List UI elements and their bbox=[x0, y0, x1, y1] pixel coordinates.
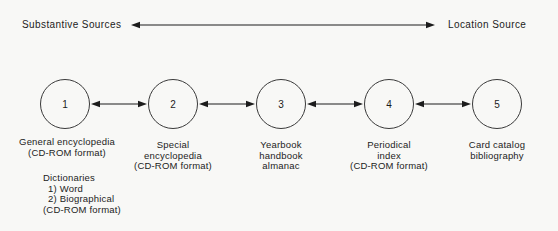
connector-double-arrow-icon bbox=[199, 99, 255, 109]
connector-double-arrow-icon bbox=[415, 99, 471, 109]
substantive-sources-label: Substantive Sources bbox=[22, 19, 121, 30]
label-line: (CD-ROM format) bbox=[43, 205, 121, 216]
label-line: bibliography bbox=[437, 151, 557, 162]
node-label-3: Yearbook handbook almanac bbox=[221, 140, 341, 172]
node-label-1: General encyclopedia (CD-ROM format) bbox=[7, 137, 127, 158]
node-number: 5 bbox=[494, 99, 500, 110]
node-circle-3: 3 bbox=[256, 79, 306, 129]
node-label-5: Card catalog bibliography bbox=[437, 140, 557, 161]
node-circle-5: 5 bbox=[472, 79, 522, 129]
node-number: 1 bbox=[62, 99, 68, 110]
connector-double-arrow-icon bbox=[91, 99, 147, 109]
location-source-label: Location Source bbox=[448, 19, 526, 30]
label-line: Card catalog bbox=[437, 140, 557, 151]
node-circle-1: 1 bbox=[40, 79, 90, 129]
dictionaries-block: Dictionaries 1) Word 2) Biographical (CD… bbox=[43, 173, 121, 215]
node-circle-2: 2 bbox=[148, 79, 198, 129]
spectrum-double-arrow-icon bbox=[131, 20, 435, 30]
label-line: Yearbook bbox=[221, 140, 341, 151]
label-line: almanac bbox=[221, 161, 341, 172]
label-line: (CD-ROM format) bbox=[7, 148, 127, 159]
node-number: 4 bbox=[386, 99, 392, 110]
label-line: General encyclopedia bbox=[7, 137, 127, 148]
label-line: Dictionaries bbox=[43, 173, 121, 184]
sources-spectrum-diagram: Substantive Sources Location Source 1 2 … bbox=[0, 0, 558, 231]
node-number: 3 bbox=[278, 99, 284, 110]
connector-double-arrow-icon bbox=[307, 99, 363, 109]
node-circle-4: 4 bbox=[364, 79, 414, 129]
label-line: Periodical bbox=[329, 140, 449, 151]
node-label-4: Periodical index (CD-ROM format) bbox=[329, 140, 449, 172]
node-label-2: Special encyclopedia (CD-ROM format) bbox=[113, 140, 233, 172]
label-line: Special bbox=[113, 140, 233, 151]
label-line: (CD-ROM format) bbox=[329, 161, 449, 172]
label-line: 2) Biographical bbox=[43, 194, 121, 205]
node-number: 2 bbox=[170, 99, 176, 110]
label-line: (CD-ROM format) bbox=[113, 161, 233, 172]
